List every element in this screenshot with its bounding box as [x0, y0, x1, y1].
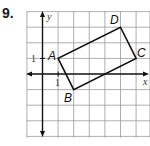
y-tick-label: 1	[31, 53, 36, 64]
coordinate-graph: y x 1 1 A B C D	[0, 0, 150, 146]
vertex-label-b: B	[64, 91, 72, 105]
vertex-label-c: C	[137, 46, 146, 60]
x-axis-label: x	[142, 76, 148, 87]
x-tick-label: 1	[55, 77, 60, 88]
y-axis-label: y	[46, 11, 52, 22]
vertex-label-d: D	[110, 13, 119, 27]
vertex-label-a: A	[47, 49, 56, 63]
axes	[26, 11, 149, 137]
